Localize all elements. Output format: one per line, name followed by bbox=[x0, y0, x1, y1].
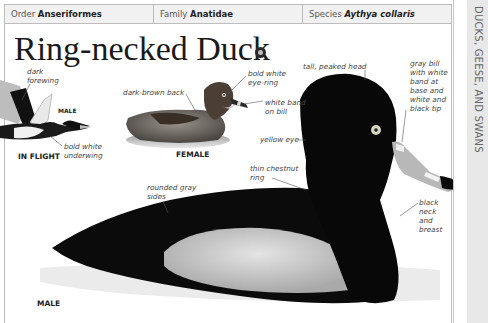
section-tab-label: DUCKS, GEESE, AND SWANS bbox=[468, 6, 488, 166]
field-guide-page: Order Anseriformes Family Anatidae Speci… bbox=[0, 0, 454, 323]
leader-lines bbox=[0, 0, 453, 323]
